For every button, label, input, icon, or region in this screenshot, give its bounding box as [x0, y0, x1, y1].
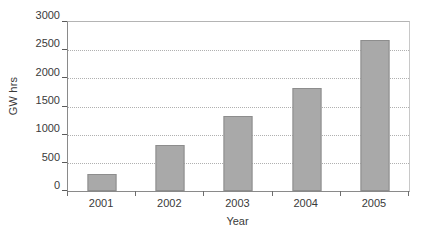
x-tick-mark — [272, 191, 273, 196]
bar-chart-figure: GW hrs 0 500 1000 1500 2000 2500 3000 — [0, 0, 424, 240]
x-axis-title: Year — [67, 215, 408, 227]
x-tick-label-2004: 2004 — [276, 197, 336, 209]
plot-area — [67, 21, 410, 192]
x-tick-label-2002: 2002 — [139, 197, 199, 209]
x-tick-label-2003: 2003 — [208, 197, 268, 209]
bar-2004[interactable] — [292, 88, 321, 191]
bar-group-2002 — [136, 22, 204, 191]
bar-group-2004 — [273, 22, 341, 191]
y-axis-tick-labels: 0 500 1000 1500 2000 2500 3000 — [24, 15, 60, 197]
y-tick-label: 0 — [24, 179, 60, 191]
x-tick-label-2001: 2001 — [71, 197, 131, 209]
x-tick-mark — [408, 191, 409, 196]
bars-layer — [68, 22, 409, 191]
bar-group-2005 — [341, 22, 409, 191]
bar-group-2003 — [204, 22, 272, 191]
bar-2005[interactable] — [360, 40, 389, 191]
y-tick-label: 3000 — [24, 9, 60, 21]
x-axis-tick-labels: 2001 2002 2003 2004 2005 — [67, 197, 408, 213]
y-tick-label: 2000 — [24, 66, 60, 78]
y-tick-label: 500 — [24, 151, 60, 163]
bar-2003[interactable] — [224, 116, 253, 191]
bar-group-2001 — [68, 22, 136, 191]
x-tick-mark — [340, 191, 341, 196]
y-tick-label: 1500 — [24, 94, 60, 106]
x-tick-label-2005: 2005 — [344, 197, 404, 209]
x-tick-mark — [67, 191, 68, 196]
x-tick-mark — [203, 191, 204, 196]
x-tick-mark — [135, 191, 136, 196]
bar-2001[interactable] — [88, 174, 117, 191]
y-tick-label: 1000 — [24, 122, 60, 134]
bar-2002[interactable] — [156, 145, 185, 191]
y-axis-title: GW hrs — [0, 0, 26, 192]
y-tick-label: 2500 — [24, 37, 60, 49]
x-axis-tick-marks — [67, 191, 410, 196]
y-axis-title-label: GW hrs — [7, 77, 19, 115]
